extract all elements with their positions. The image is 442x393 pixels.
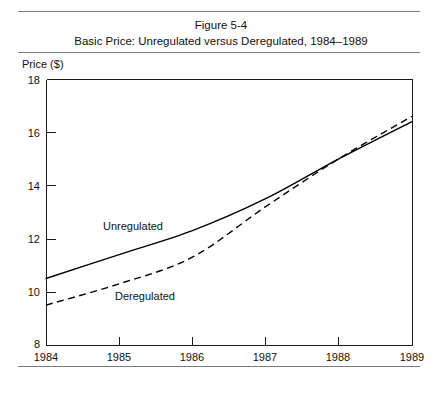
x-axis-ticks: [120, 337, 339, 346]
series-line-unregulated: [46, 122, 412, 279]
plot-area: [0, 0, 442, 393]
series-annotation-unregulated: Unregulated: [103, 220, 163, 232]
series-annotation-deregulated: Deregulated: [115, 290, 175, 302]
divider-bottom: [18, 366, 420, 367]
figure-container: Figure 5-4 Basic Price: Unregulated vers…: [0, 0, 442, 393]
plot-frame: [47, 80, 413, 346]
y-axis-ticks: [47, 133, 56, 293]
series-line-deregulated: [46, 116, 412, 305]
